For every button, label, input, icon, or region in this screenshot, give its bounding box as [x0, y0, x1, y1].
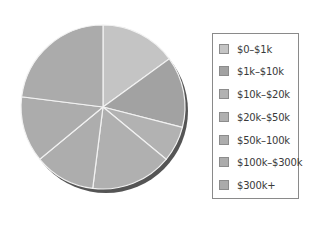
- legend-swatch: [219, 180, 229, 190]
- legend-label: $10k–$20k: [237, 89, 290, 100]
- legend-swatch: [219, 89, 229, 99]
- legend-label: $1k–$10k: [237, 66, 284, 77]
- legend-item: $1k–$10k: [219, 65, 284, 77]
- pie-slice: [22, 25, 103, 107]
- legend-item: $300k+: [219, 179, 275, 191]
- legend-swatch: [219, 157, 229, 167]
- pie-slices: [21, 25, 185, 189]
- legend-item: $50k–100k: [219, 134, 290, 146]
- legend: $0–$1k $1k–$10k $10k–$20k $20k–$50k $50k…: [212, 33, 299, 199]
- legend-label: $50k–100k: [237, 135, 290, 146]
- legend-item: $20k–$50k: [219, 111, 290, 123]
- legend-label: $100k–$300k: [237, 157, 302, 168]
- legend-item: $100k–$300k: [219, 156, 302, 168]
- legend-swatch: [219, 66, 229, 76]
- legend-swatch: [219, 135, 229, 145]
- legend-item: $10k–$20k: [219, 88, 290, 100]
- legend-swatch: [219, 44, 229, 54]
- legend-item: $0–$1k: [219, 43, 272, 55]
- legend-label: $0–$1k: [237, 44, 272, 55]
- legend-label: $300k+: [237, 180, 275, 191]
- legend-swatch: [219, 112, 229, 122]
- legend-label: $20k–$50k: [237, 112, 290, 123]
